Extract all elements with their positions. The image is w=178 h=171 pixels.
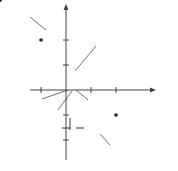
g-leader <box>100 134 110 145</box>
intersection-point-right <box>114 113 118 117</box>
y-axis-arrow-icon <box>64 4 69 10</box>
x-axis-arrow-icon <box>150 88 156 93</box>
xk-leader <box>76 90 88 100</box>
f-leader <box>30 17 46 30</box>
area-diagram <box>0 0 178 171</box>
xkstar-leader <box>58 91 72 110</box>
xk1-leader <box>42 90 68 99</box>
midpoint-leader <box>75 46 96 71</box>
midpoint-dot <box>0 0 2 2</box>
intersection-point-left <box>39 38 43 42</box>
